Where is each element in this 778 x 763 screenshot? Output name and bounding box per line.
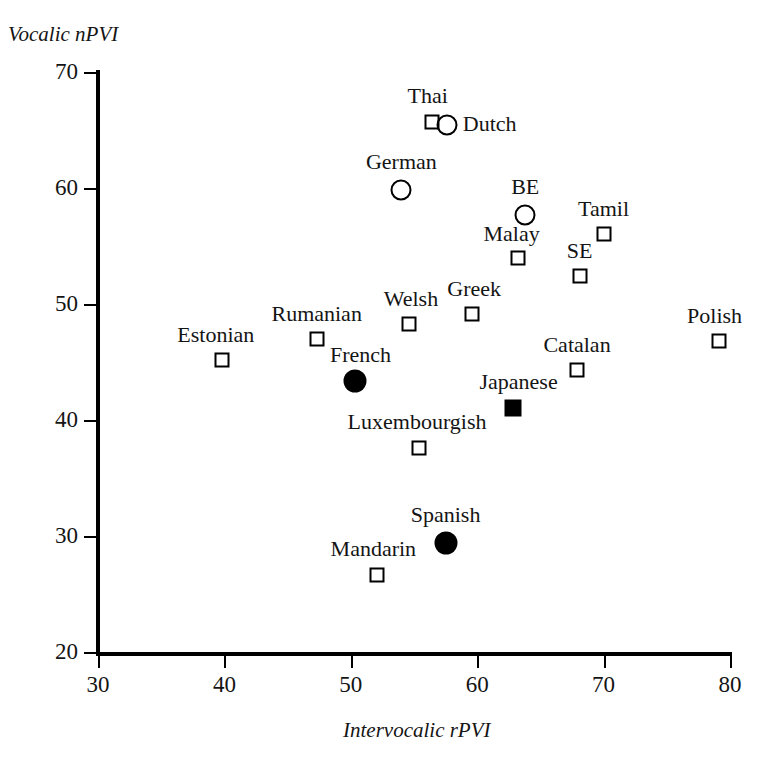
data-point-marker[interactable]	[570, 363, 585, 378]
x-tick-mark	[730, 656, 732, 668]
x-tick-label: 40	[194, 673, 254, 696]
data-point-marker[interactable]	[510, 250, 525, 265]
scatter-plot-figure: Vocalic nPVI 203040506070 304050607080 T…	[0, 0, 778, 763]
x-tick-mark	[477, 656, 479, 668]
data-point-label: Mandarin	[331, 538, 417, 560]
data-point-marker[interactable]	[465, 307, 480, 322]
x-tick-label: 70	[574, 673, 634, 696]
data-point-label: BE	[511, 176, 539, 198]
data-point-label: Catalan	[543, 334, 610, 356]
data-point-label: Luxembourgish	[348, 411, 487, 433]
data-point-label: Dutch	[463, 113, 517, 135]
data-point-label: Thai	[408, 85, 448, 107]
data-point-marker[interactable]	[391, 180, 412, 201]
x-tick-mark	[351, 656, 353, 668]
y-axis-title: Vocalic nPVI	[8, 22, 118, 47]
y-tick-mark	[84, 304, 96, 306]
data-point-marker[interactable]	[412, 440, 427, 455]
data-point-marker[interactable]	[572, 269, 587, 284]
data-point-label: Spanish	[411, 504, 481, 526]
data-point-marker[interactable]	[309, 331, 324, 346]
y-tick-mark	[84, 652, 96, 654]
data-point-marker[interactable]	[596, 227, 611, 242]
x-tick-mark	[98, 656, 100, 668]
x-tick-label: 30	[68, 673, 128, 696]
y-tick-mark	[84, 420, 96, 422]
x-axis-title: Intervocalic rPVI	[343, 718, 491, 743]
y-tick-label: 40	[26, 408, 78, 431]
x-axis-line	[96, 652, 732, 656]
y-tick-label: 50	[26, 292, 78, 315]
data-point-label: Japanese	[479, 371, 557, 393]
data-point-marker[interactable]	[504, 400, 521, 417]
x-tick-label: 60	[447, 673, 507, 696]
data-point-label: Tamil	[578, 198, 629, 220]
data-point-marker[interactable]	[214, 352, 229, 367]
data-point-label: SE	[567, 240, 593, 262]
x-tick-mark	[604, 656, 606, 668]
data-point-label: Welsh	[384, 288, 438, 310]
data-point-label: Greek	[447, 278, 501, 300]
data-point-label: Polish	[687, 305, 742, 327]
data-point-marker[interactable]	[434, 531, 457, 554]
x-tick-label: 80	[700, 673, 760, 696]
y-tick-label: 70	[26, 60, 78, 83]
x-tick-label: 50	[321, 673, 381, 696]
data-point-label: Rumanian	[271, 303, 361, 325]
data-point-label: German	[366, 151, 437, 173]
y-tick-mark	[84, 188, 96, 190]
data-point-label: French	[330, 344, 391, 366]
y-tick-label: 30	[26, 524, 78, 547]
y-axis-line	[96, 70, 100, 656]
data-point-marker[interactable]	[401, 316, 416, 331]
x-tick-mark	[224, 656, 226, 668]
y-tick-label: 60	[26, 176, 78, 199]
y-tick-mark	[84, 536, 96, 538]
data-point-marker[interactable]	[436, 115, 457, 136]
y-tick-mark	[84, 72, 96, 74]
data-point-marker[interactable]	[711, 334, 726, 349]
y-tick-label: 20	[26, 640, 78, 663]
data-point-marker[interactable]	[343, 369, 366, 392]
data-point-marker[interactable]	[370, 568, 385, 583]
data-point-label: Malay	[484, 223, 540, 245]
data-point-label: Estonian	[177, 324, 254, 346]
